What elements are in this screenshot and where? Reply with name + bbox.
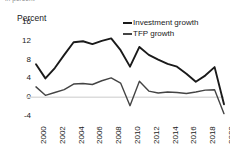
series-lines — [36, 38, 224, 113]
chart-figure: in percent Percent 1612840-4 20002002200… — [0, 0, 230, 152]
chart-legend: Investment growthTFP growth — [123, 17, 198, 39]
legend-item: Investment growth — [123, 17, 198, 28]
legend-label: Investment growth — [133, 17, 198, 28]
series-line — [36, 78, 224, 114]
legend-item: TFP growth — [123, 28, 198, 39]
legend-line-swatch-icon — [123, 33, 132, 35]
legend-label: TFP growth — [133, 28, 174, 39]
legend-line-swatch-icon — [123, 22, 132, 24]
series-line — [36, 38, 224, 104]
